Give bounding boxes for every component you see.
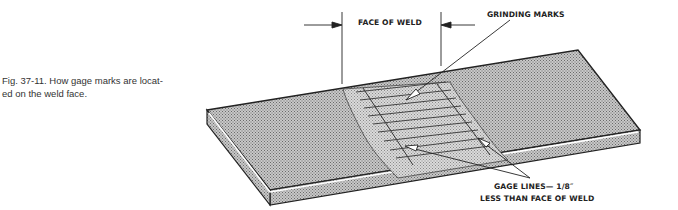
grinding-marks-label: GRINDING MARKS xyxy=(487,10,565,19)
weld-plate-diagram xyxy=(0,0,678,210)
face-of-weld-label: FACE OF WELD xyxy=(358,18,422,27)
gage-lines-label-line-2: LESS THAN FACE OF WELD xyxy=(480,194,594,203)
gage-lines-label-line-1: GAGE LINES— 1/8″ xyxy=(494,182,573,191)
